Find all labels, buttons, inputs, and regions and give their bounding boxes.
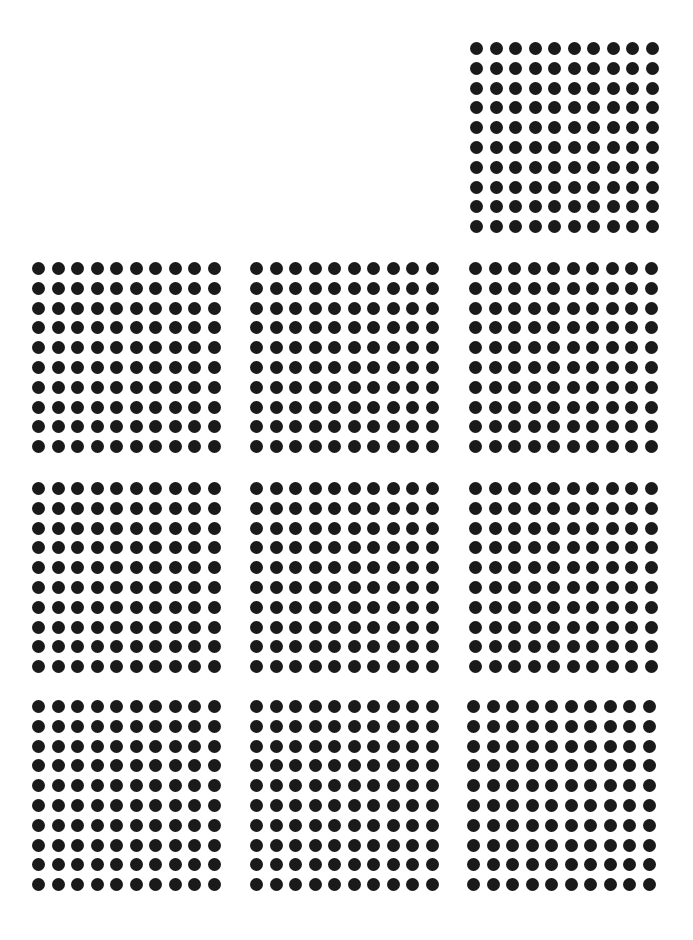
dot [367, 621, 380, 634]
dot [607, 82, 620, 95]
dot [586, 621, 599, 634]
dot [426, 381, 439, 394]
dot [426, 759, 439, 772]
dot [188, 541, 201, 554]
dot [547, 601, 560, 614]
dot [188, 640, 201, 653]
dot [130, 420, 143, 433]
dot [367, 799, 380, 812]
dot [406, 660, 419, 673]
dot [606, 440, 619, 453]
dot [208, 401, 221, 414]
dot [110, 262, 123, 275]
dot [71, 601, 84, 614]
dot [387, 341, 400, 354]
dot [490, 82, 503, 95]
dot [568, 220, 581, 233]
dot [528, 321, 541, 334]
dot [487, 839, 500, 852]
dot [270, 660, 283, 673]
dot [32, 420, 45, 433]
dot [426, 341, 439, 354]
dot [547, 420, 560, 433]
dot [387, 381, 400, 394]
dot [509, 220, 522, 233]
dot [52, 581, 65, 594]
dot [130, 381, 143, 394]
dot [130, 502, 143, 515]
dot [328, 839, 341, 852]
dot [406, 321, 419, 334]
dot [508, 381, 521, 394]
dot [328, 282, 341, 295]
dot [545, 700, 558, 713]
dot [270, 700, 283, 713]
dot [469, 660, 482, 673]
dot [426, 561, 439, 574]
hundred-block [250, 700, 439, 891]
dot [625, 660, 638, 673]
dot [130, 440, 143, 453]
dot [328, 581, 341, 594]
dot [529, 101, 542, 114]
dot [169, 541, 182, 554]
dot [489, 601, 502, 614]
dot [607, 220, 620, 233]
dot [328, 819, 341, 832]
dot [289, 561, 302, 574]
dot [169, 502, 182, 515]
dot [348, 858, 361, 871]
dot [91, 541, 104, 554]
dot [32, 361, 45, 374]
dot [586, 482, 599, 495]
dot [71, 302, 84, 315]
dot [467, 720, 480, 733]
dot [643, 839, 656, 852]
dot [528, 640, 541, 653]
dot [110, 381, 123, 394]
dot [309, 561, 322, 574]
dot [587, 62, 600, 75]
dot [149, 581, 162, 594]
dot [547, 262, 560, 275]
dot [270, 561, 283, 574]
dot [565, 839, 578, 852]
dot [508, 601, 521, 614]
dot [32, 341, 45, 354]
dot [625, 341, 638, 354]
dot [188, 858, 201, 871]
dot [91, 878, 104, 891]
dot [149, 839, 162, 852]
dot [348, 282, 361, 295]
dot [548, 42, 561, 55]
dot [623, 839, 636, 852]
dot [208, 381, 221, 394]
dot [250, 660, 263, 673]
dot [208, 440, 221, 453]
dot [646, 200, 659, 213]
dot [169, 640, 182, 653]
dot [469, 401, 482, 414]
dot [487, 858, 500, 871]
dot [489, 522, 502, 535]
dot [309, 302, 322, 315]
dot [607, 121, 620, 134]
dot [645, 561, 658, 574]
dot [52, 561, 65, 574]
dot [623, 740, 636, 753]
dot [91, 581, 104, 594]
dot [387, 839, 400, 852]
dot [406, 740, 419, 753]
dot [348, 640, 361, 653]
dot [586, 601, 599, 614]
hundred-block [467, 700, 656, 891]
dot [528, 361, 541, 374]
dot [289, 262, 302, 275]
dot [645, 282, 658, 295]
dot [188, 482, 201, 495]
dot [469, 381, 482, 394]
dot [71, 839, 84, 852]
dot [208, 561, 221, 574]
dot [426, 858, 439, 871]
dot [250, 720, 263, 733]
